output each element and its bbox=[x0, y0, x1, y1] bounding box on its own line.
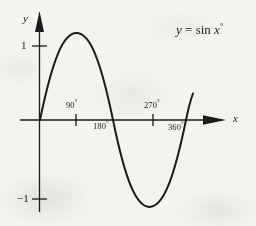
y-axis-arrowhead bbox=[35, 11, 44, 32]
x-tick-label-360-value: 360 bbox=[168, 122, 181, 132]
x-tick-label-270: 270° bbox=[144, 101, 160, 110]
equation-function: sin bbox=[196, 22, 214, 37]
x-tick-label-270-value: 270 bbox=[144, 100, 157, 110]
degree-icon: ° bbox=[220, 21, 224, 31]
degree-icon: ° bbox=[75, 98, 78, 105]
equation-annotation: y = sin x° bbox=[176, 23, 223, 36]
x-axis-label: x bbox=[233, 113, 238, 124]
y-tick-label-neg-1: −1 bbox=[17, 193, 29, 204]
x-tick-label-90-value: 90 bbox=[66, 100, 75, 110]
degree-icon: ° bbox=[181, 120, 184, 127]
x-axis-arrowhead bbox=[203, 115, 226, 125]
degree-icon: ° bbox=[106, 119, 109, 126]
x-tick-label-180: 180° bbox=[93, 122, 109, 131]
sine-graph-figure: y x 1 −1 90° 180° 270° 360° y = sin x° bbox=[0, 0, 256, 226]
y-tick-label-1: 1 bbox=[21, 40, 27, 51]
x-tick-label-180-value: 180 bbox=[93, 121, 106, 131]
x-tick-label-90: 90° bbox=[66, 101, 77, 110]
y-axis-label: y bbox=[23, 13, 28, 24]
equation-equals: = bbox=[182, 22, 196, 37]
x-tick-label-360: 360° bbox=[168, 123, 184, 132]
degree-icon: ° bbox=[157, 98, 160, 105]
